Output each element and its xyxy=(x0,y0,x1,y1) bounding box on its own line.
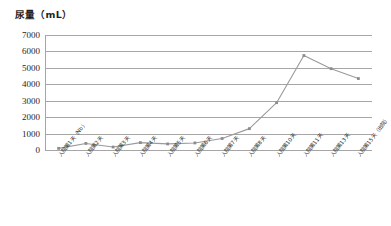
y-axis-tick-label: 0 xyxy=(4,146,40,155)
y-axis-tick-label: 7000 xyxy=(4,31,40,40)
plot-area xyxy=(45,35,372,150)
data-point-marker xyxy=(193,142,196,145)
data-point-marker xyxy=(221,137,224,140)
y-axis-tick-label: 1000 xyxy=(4,130,40,139)
data-point-marker xyxy=(139,141,142,144)
data-point-marker xyxy=(248,127,251,130)
y-axis-tick-label: 5000 xyxy=(4,64,40,73)
data-point-marker xyxy=(357,77,360,80)
series-line xyxy=(59,56,359,149)
data-point-marker xyxy=(275,101,278,104)
x-axis-tick-labels: 入院第1天（Nb）入院第2天入院第3天入院第4天入院第5天入院第6天入院第7天入… xyxy=(45,152,372,222)
chart-title: 尿量（mL） xyxy=(15,7,72,21)
series-urine-output xyxy=(45,35,372,150)
data-point-marker xyxy=(302,54,305,57)
data-point-marker xyxy=(84,142,87,145)
y-axis-tick-label: 3000 xyxy=(4,97,40,106)
y-axis-tick-label: 4000 xyxy=(4,80,40,89)
y-axis-tick-label: 2000 xyxy=(4,113,40,122)
y-axis-tick-label: 6000 xyxy=(4,47,40,56)
data-point-marker xyxy=(166,143,169,146)
data-point-marker xyxy=(330,67,333,70)
